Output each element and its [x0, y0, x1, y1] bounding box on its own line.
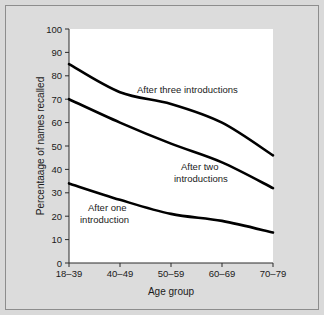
y-axis-tick-label: 100 [46, 24, 62, 35]
y-axis-tick-label: 90 [51, 47, 62, 58]
series-label-after-three-introductions: After three introductions [137, 84, 238, 95]
series-label-after-two-introductions-line1: After two [181, 161, 219, 172]
series-label-after-one-introduction-line2: introduction [80, 214, 129, 225]
y-axis-tick-label: 50 [51, 141, 62, 152]
y-axis-tick-label: 40 [51, 164, 62, 175]
y-axis-tick-label: 70 [51, 94, 62, 105]
x-axis-ticks [69, 263, 273, 267]
y-axis-tick-label: 60 [51, 117, 62, 128]
y-axis-tick-label: 80 [51, 70, 62, 81]
x-axis-title: Age group [148, 286, 195, 297]
line-chart: 0102030405060708090100 18–3940–4950–5960… [0, 0, 324, 315]
x-axis-tick-label: 70–79 [260, 268, 286, 279]
x-axis-tick-label: 50–59 [158, 268, 184, 279]
y-axis-tick-label: 10 [51, 234, 62, 245]
y-axis-tick-label: 0 [57, 258, 62, 269]
x-axis-tick-label: 18–39 [56, 268, 82, 279]
x-axis-tick-labels: 18–3940–4950–5960–6970–79 [56, 268, 286, 279]
y-axis-tick-label: 20 [51, 211, 62, 222]
figure-container: 0102030405060708090100 18–3940–4950–5960… [0, 0, 324, 315]
y-axis-tick-label: 30 [51, 187, 62, 198]
plot-background [69, 29, 273, 263]
series-label-after-one-introduction-line1: After one [88, 202, 127, 213]
series-label-after-two-introductions-line2: introductions [174, 173, 228, 184]
y-axis-title: Percentaage of names recalled [35, 77, 46, 215]
x-axis-tick-label: 40–49 [107, 268, 133, 279]
x-axis-tick-label: 60–69 [209, 268, 235, 279]
chart-svg: 0102030405060708090100 18–3940–4950–5960… [0, 0, 324, 315]
y-axis-tick-labels: 0102030405060708090100 [46, 24, 62, 269]
